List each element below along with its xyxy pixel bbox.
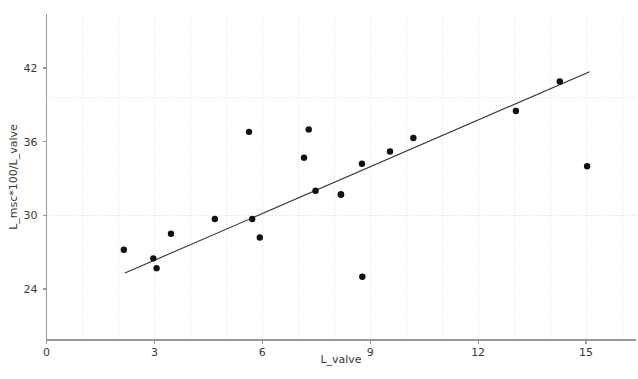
y-tick-label: 30 — [24, 209, 38, 222]
data-point — [338, 191, 344, 197]
data-point — [359, 274, 365, 280]
data-point — [121, 247, 127, 253]
y-axis-ticks-group: 24303642 — [24, 62, 47, 296]
x-axis-title: L_valve — [320, 353, 361, 366]
data-point — [168, 231, 174, 237]
plot-canvas: 24303642 03691215 L_valve L_msc*100/L_va… — [0, 0, 638, 379]
data-point — [153, 265, 159, 271]
data-point — [312, 188, 318, 194]
x-tick-label: 6 — [259, 346, 266, 359]
x-axis-ticks-group: 03691215 — [43, 340, 593, 359]
data-point — [150, 255, 156, 261]
data-point — [246, 129, 252, 135]
data-point — [557, 78, 563, 84]
regression-line — [125, 72, 590, 273]
data-points-group — [121, 78, 591, 280]
x-tick-label: 9 — [367, 346, 374, 359]
vertical-gridlines-group — [82, 14, 622, 340]
x-tick-label: 0 — [43, 346, 50, 359]
x-tick-label: 12 — [471, 346, 485, 359]
data-point — [257, 234, 263, 240]
data-point — [212, 216, 218, 222]
data-point — [513, 108, 519, 114]
x-tick-label: 15 — [579, 346, 593, 359]
y-tick-label: 36 — [24, 136, 38, 149]
y-axis-title: L_msc*100/L_valve — [7, 124, 20, 230]
data-point — [359, 161, 365, 167]
data-point — [249, 216, 255, 222]
y-tick-label: 42 — [24, 62, 38, 75]
regression-line-group — [125, 72, 590, 273]
data-point — [306, 126, 312, 132]
data-point — [584, 163, 590, 169]
y-tick-label: 24 — [24, 283, 38, 296]
data-point — [410, 135, 416, 141]
scatter-plot-figure: 24303642 03691215 L_valve L_msc*100/L_va… — [0, 0, 638, 379]
data-point — [301, 154, 307, 160]
data-point — [387, 148, 393, 154]
x-tick-label: 3 — [151, 346, 158, 359]
